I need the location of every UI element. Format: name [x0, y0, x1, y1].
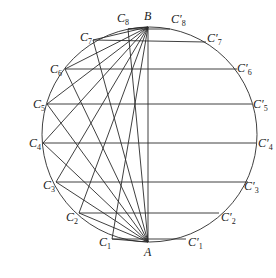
label-c3: C3 — [43, 178, 55, 194]
label-a: A — [143, 245, 152, 259]
label-c-prime7: C′7 — [207, 31, 222, 47]
label-c6: C6 — [50, 62, 62, 78]
line-b-c1 — [112, 27, 148, 239]
label-c-prime2: C′2 — [221, 210, 236, 226]
label-c1: C1 — [99, 235, 111, 251]
label-c2: C2 — [66, 210, 78, 226]
label-c-prime4: C′4 — [258, 136, 273, 152]
label-c-prime5: C′5 — [253, 97, 268, 113]
label-c-prime3: C′3 — [244, 179, 259, 195]
line-a-c5 — [47, 104, 148, 242]
label-b: B — [144, 9, 152, 23]
point-labels: C1C2C3C4C5C6C7C8C′1C′2C′3C′4C′5C′6C′7C′8… — [29, 9, 273, 259]
label-c7: C7 — [80, 30, 92, 46]
label-c-prime8: C′8 — [171, 12, 186, 28]
label-c5: C5 — [33, 97, 45, 113]
label-c-prime1: C′1 — [188, 235, 203, 251]
circle-chord-diagram: C1C2C3C4C5C6C7C8C′1C′2C′3C′4C′5C′6C′7C′8… — [0, 0, 276, 278]
line-b-c4 — [43, 27, 148, 143]
label-c4: C4 — [29, 136, 41, 152]
diagram-canvas: C1C2C3C4C5C6C7C8C′1C′2C′3C′4C′5C′6C′7C′8… — [0, 0, 276, 278]
horizontal-chords — [43, 29, 256, 239]
chord-c7 — [93, 40, 206, 42]
label-c8: C8 — [117, 11, 129, 27]
label-c-prime6: C′6 — [237, 61, 252, 77]
fan-lines — [43, 27, 148, 242]
line-a-c8 — [128, 29, 148, 242]
